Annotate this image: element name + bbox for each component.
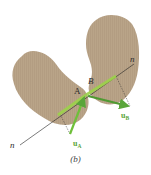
normal-label-start: n bbox=[10, 140, 15, 150]
normal-label-end: n bbox=[130, 54, 135, 64]
vector-u-b-label: uB bbox=[121, 111, 129, 121]
figure-caption: (b) bbox=[0, 154, 151, 164]
point-a-label: A bbox=[74, 86, 81, 96]
point-b-label: B bbox=[88, 76, 94, 86]
impact-diagram: A B n n uA uB bbox=[0, 0, 151, 175]
vector-u-a-label: uA bbox=[73, 139, 81, 149]
